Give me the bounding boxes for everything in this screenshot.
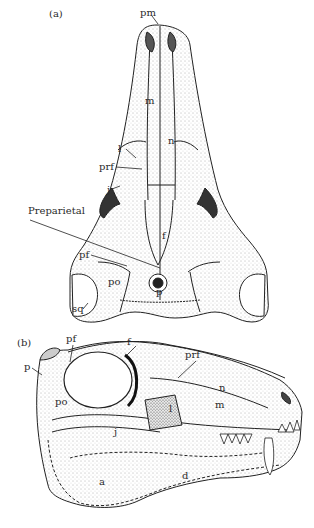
label-frontal-dorsal: f <box>162 231 166 241</box>
panel-label-b: (b) <box>17 338 31 348</box>
dorsal-view <box>70 25 268 322</box>
label-prefrontal-dorsal: prf <box>99 162 114 172</box>
label-squamosal-dorsal: sq <box>72 304 84 314</box>
label-lacrimal-dorsal: l <box>118 144 121 154</box>
label-jugal-lateral: j <box>114 427 117 437</box>
label-parietal-dorsal: p <box>156 287 162 297</box>
label-frontal-lateral: f <box>127 337 131 347</box>
label-postorbital-lateral: po <box>55 397 67 407</box>
label-premaxilla-dorsal: pm <box>140 8 156 18</box>
label-dentary-lateral: d <box>182 471 188 481</box>
label-nasal-lateral: n <box>219 383 225 393</box>
lateral-view <box>37 341 302 507</box>
skull-figure: (a) (b) pm m n l prf j Preparietal f pf … <box>0 0 314 528</box>
label-prefrontal-lateral: prf <box>185 350 200 360</box>
label-maxilla-lateral: m <box>215 400 224 410</box>
label-lacrimal-lateral: l <box>169 404 172 414</box>
label-postfrontal-dorsal: pf <box>79 250 89 260</box>
label-postfrontal-lateral: pf <box>66 334 76 344</box>
panel-label-a: (a) <box>49 9 63 19</box>
skull-drawing <box>0 0 314 528</box>
label-jugal-dorsal: j <box>107 185 110 195</box>
label-maxilla-dorsal: m <box>145 96 154 106</box>
label-parietal-lateral: p <box>24 362 30 372</box>
label-angular-lateral: a <box>99 477 105 487</box>
label-postorbital-dorsal: po <box>108 277 120 287</box>
label-preparietal: Preparietal <box>28 206 85 216</box>
label-nasal-dorsal: n <box>168 136 174 146</box>
